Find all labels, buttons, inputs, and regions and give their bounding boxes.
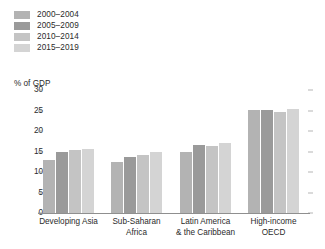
- bar[interactable]: [69, 150, 81, 213]
- bar[interactable]: [111, 162, 123, 213]
- bar[interactable]: [274, 112, 286, 213]
- legend-swatch-icon: [14, 44, 30, 52]
- chart-legend: 2000–20042005–20092010–20142015–2019: [14, 10, 79, 52]
- legend-item[interactable]: 2000–2004: [14, 10, 79, 19]
- bar-group: [43, 149, 94, 213]
- bar-group: [111, 152, 162, 213]
- bar[interactable]: [124, 157, 136, 213]
- bar-chart: 2000–20042005–20092010–20142015–2019 % o…: [0, 0, 325, 249]
- bar[interactable]: [82, 149, 94, 213]
- bars-layer: [0, 86, 325, 218]
- legend-item[interactable]: 2015–2019: [14, 43, 79, 52]
- legend-item[interactable]: 2010–2014: [14, 32, 79, 41]
- bar-group: [248, 109, 299, 213]
- x-axis-labels: Developing AsiaSub-Saharan AfricaLatin A…: [0, 216, 325, 249]
- bar[interactable]: [56, 152, 68, 213]
- bar[interactable]: [150, 152, 162, 213]
- legend-swatch-icon: [14, 11, 30, 19]
- legend-swatch-icon: [14, 33, 30, 41]
- legend-item-label: 2005–2009: [37, 22, 79, 30]
- bar[interactable]: [248, 110, 260, 213]
- bar[interactable]: [219, 143, 231, 213]
- bar[interactable]: [287, 109, 299, 213]
- bar[interactable]: [193, 145, 205, 213]
- legend-item-label: 2010–2014: [37, 33, 79, 41]
- legend-item-label: 2015–2019: [37, 44, 79, 52]
- x-axis-category-label: High-income OECD: [229, 216, 319, 238]
- bar[interactable]: [180, 152, 192, 214]
- bar[interactable]: [261, 110, 273, 213]
- plot-area: 302520151050: [0, 86, 325, 218]
- bar[interactable]: [43, 160, 55, 213]
- legend-swatch-icon: [14, 22, 30, 30]
- legend-item[interactable]: 2005–2009: [14, 21, 79, 30]
- bar[interactable]: [137, 155, 149, 213]
- bar-group: [180, 143, 231, 213]
- legend-item-label: 2000–2004: [37, 11, 79, 19]
- bar[interactable]: [206, 146, 218, 213]
